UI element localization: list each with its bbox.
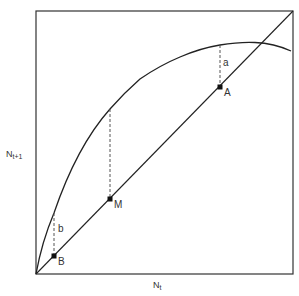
x-axis-label: Nt	[153, 280, 162, 291]
point-b-label: B	[58, 256, 65, 267]
point-m-label: M	[114, 199, 122, 210]
point-a-marker	[218, 85, 223, 90]
gap-a-label: a	[223, 57, 229, 68]
point-a-label: A	[224, 87, 231, 98]
point-m-marker	[108, 197, 113, 202]
recruitment-diagram: B M A a b Nt+1 Nt	[0, 0, 299, 296]
point-b-marker	[52, 254, 57, 259]
gap-b-label: b	[58, 223, 64, 234]
recruitment-curve	[36, 42, 291, 274]
y-axis-label: Nt+1	[6, 149, 23, 160]
replacement-line	[36, 11, 293, 274]
